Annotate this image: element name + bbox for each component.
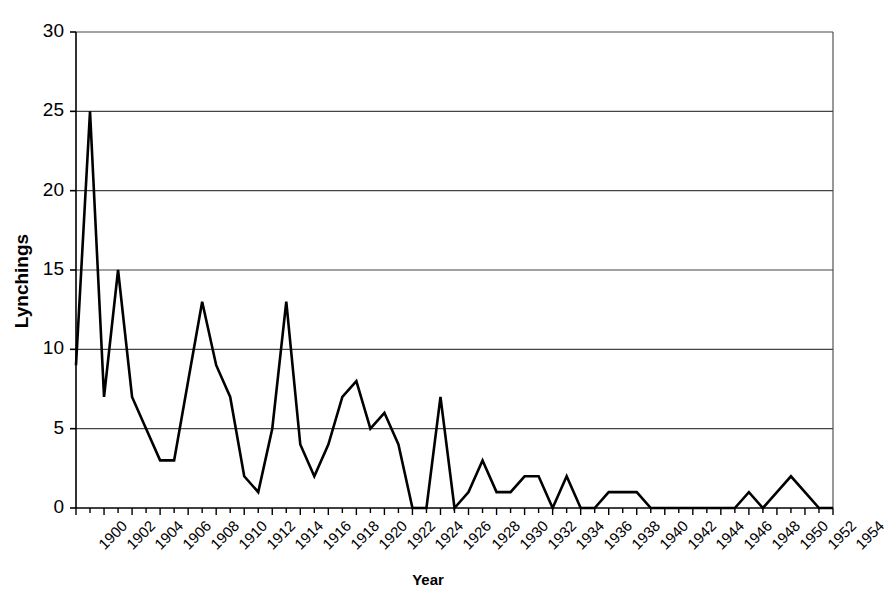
y-tick-label-5: 5 (18, 417, 64, 439)
x-axis-title: Year (0, 571, 856, 588)
y-axis-title: Lynchings (11, 181, 33, 381)
x-tick-label-1954: 1954 (852, 517, 887, 553)
y-tick-label-25: 25 (18, 99, 64, 121)
series-line-lynchings (76, 111, 833, 508)
y-tick-label-0: 0 (18, 496, 64, 518)
y-tick-label-30: 30 (18, 20, 64, 42)
data-series-line (76, 111, 833, 508)
y-axis-ticks (70, 32, 76, 508)
